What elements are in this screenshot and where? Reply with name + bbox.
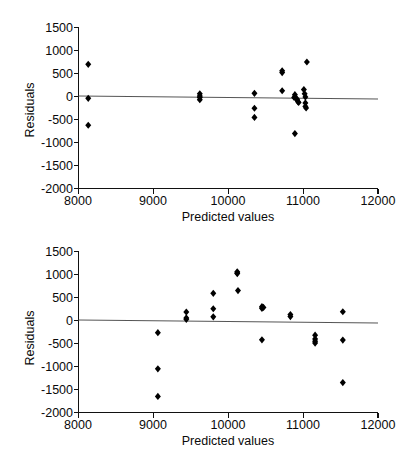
- bottom-plot-canvas: Residuals 1500 1000 500 0 -500 -1000 -15…: [0, 230, 415, 459]
- data-point: [85, 61, 91, 68]
- bottom-xtick-label: 8000: [64, 418, 92, 432]
- data-point: [155, 365, 161, 372]
- top-ytick-label: 0: [66, 90, 73, 104]
- data-point: [340, 308, 346, 315]
- data-point: [251, 105, 257, 112]
- data-point: [183, 316, 189, 323]
- top-ytick-label: 1500: [45, 21, 73, 35]
- bottom-ytick-label: 0: [66, 314, 73, 328]
- data-point: [210, 305, 216, 312]
- bottom-xtick-label: 10000: [211, 418, 246, 432]
- data-point: [259, 336, 265, 343]
- top-ytick-label: 1000: [45, 44, 73, 58]
- top-x-axis-title: Predicted values: [182, 210, 274, 224]
- data-point: [85, 122, 91, 129]
- data-point: [279, 87, 285, 94]
- data-point: [340, 336, 346, 343]
- top-ytick-label: -500: [48, 113, 73, 127]
- data-point: [155, 329, 161, 336]
- top-xtick-label: 11000: [286, 194, 320, 208]
- bottom-xtick-label: 9000: [139, 418, 167, 432]
- data-point: [251, 90, 257, 97]
- bottom-ytick-label: 500: [52, 291, 73, 305]
- top-plot-canvas: Residuals 1500 1000 500 0 -500 -1000 -15…: [0, 0, 415, 229]
- top-ytick-label: -1000: [41, 136, 73, 150]
- figure-page: Residuals 1500 1000 500 0 -500 -1000 -15…: [0, 0, 415, 459]
- top-xtick-label: 9000: [139, 194, 167, 208]
- bottom-ytick-label: 1000: [45, 268, 73, 282]
- bottom-ytick-label: -500: [48, 337, 73, 351]
- bottom-xtick-label: 11000: [286, 418, 320, 432]
- top-y-axis-title: Residuals: [23, 83, 37, 138]
- data-point: [251, 114, 257, 121]
- bottom-ytick-label: -1000: [41, 360, 73, 374]
- top-ytick-label: -1500: [41, 159, 73, 173]
- residuals-plot-bottom: Residuals 1500 1000 500 0 -500 -1000 -15…: [0, 230, 415, 459]
- bottom-zero-reference-line: [79, 320, 379, 323]
- data-point: [210, 290, 216, 297]
- data-point: [340, 379, 346, 386]
- top-zero-reference-line: [79, 96, 379, 99]
- top-ytick-label: 500: [52, 67, 73, 81]
- data-point: [292, 130, 298, 137]
- data-point: [235, 287, 241, 294]
- bottom-ytick-label: 1500: [45, 245, 73, 259]
- data-point: [155, 393, 161, 400]
- data-point: [234, 269, 240, 276]
- top-xtick-label: 12000: [361, 194, 396, 208]
- residuals-plot-top: Residuals 1500 1000 500 0 -500 -1000 -15…: [0, 0, 415, 229]
- top-xtick-label: 10000: [211, 194, 246, 208]
- bottom-ytick-label: -1500: [41, 383, 73, 397]
- bottom-y-axis-title: Residuals: [23, 311, 37, 366]
- data-point: [304, 58, 310, 65]
- data-point: [210, 313, 216, 320]
- bottom-x-axis-title: Predicted values: [182, 434, 274, 448]
- bottom-xtick-label: 12000: [361, 418, 396, 432]
- top-xtick-label: 8000: [64, 194, 92, 208]
- bottom-data-markers: [155, 268, 346, 400]
